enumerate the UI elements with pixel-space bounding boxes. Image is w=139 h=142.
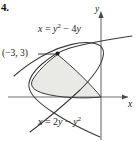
shaded-region <box>32 55 101 98</box>
equation-label-lower-curve: x = 2y − y2 <box>38 116 81 127</box>
equation-label-upper-curve: x = y2 − 4y <box>38 23 81 34</box>
intersection-point-label: (−3, 3) <box>2 48 28 58</box>
intersection-point-marker <box>55 51 59 55</box>
x-axis-label: x <box>128 99 132 109</box>
textbook-figure: 4. x = y2 − 4y x = 2y − y2 (−3, 3) y x <box>0 0 139 142</box>
y-axis-label: y <box>95 4 99 14</box>
